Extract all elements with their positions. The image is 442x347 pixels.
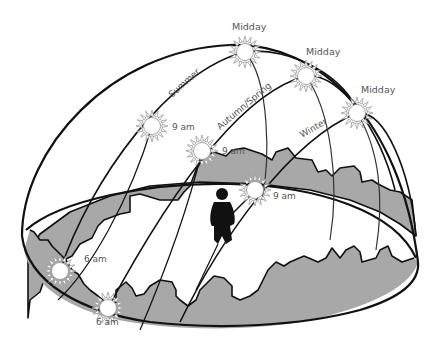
noon-line-autumn (306, 76, 334, 240)
sun-icon-midday-summer (229, 36, 261, 68)
label-6am-autumn: 6 am (96, 317, 119, 327)
label-midday-winter: Midday (361, 84, 396, 95)
sun-icon-midday-autumn (290, 60, 322, 92)
pointing-stick (230, 194, 252, 216)
sun-icon-midday-winter (341, 97, 373, 129)
sun-path-diagram: Midday Midday Midday 9 am 9 am 9 am 6 am… (0, 0, 442, 347)
label-9am-summer: 9 am (172, 122, 195, 132)
label-9am-winter: 9 am (273, 191, 296, 201)
sun-icon-9am-summer (136, 110, 168, 142)
label-summer: Summer (167, 66, 202, 99)
sun-icon-6am-summer (44, 255, 76, 287)
label-midday-autumn: Midday (306, 46, 341, 57)
label-9am-autumn: 9 am (222, 146, 245, 156)
label-winter: Winter (298, 116, 329, 140)
person-silhouette (210, 188, 235, 244)
landscape-front (24, 230, 418, 328)
label-midday-summer: Midday (232, 21, 267, 32)
label-6am-summer: 6 am (84, 254, 107, 264)
sun-icon-9am-winter (239, 174, 271, 206)
sun-icon-9am-autumn (186, 135, 218, 167)
